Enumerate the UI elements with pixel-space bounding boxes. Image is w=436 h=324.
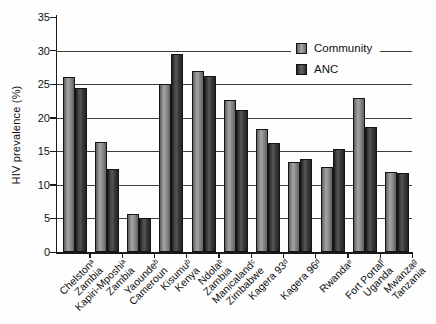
bar-anc-8	[333, 149, 345, 252]
legend-entry-community: Community	[291, 40, 380, 56]
bar-community-7	[288, 162, 300, 252]
gridline-25	[57, 84, 412, 85]
bar-community-4	[192, 71, 204, 252]
bar-community-10	[385, 172, 397, 252]
bar-anc-5	[236, 110, 248, 252]
bar-community-0	[63, 77, 75, 252]
bar-community-3	[159, 84, 171, 252]
y-tick-label-0: 0	[14, 246, 50, 258]
y-tick-label-5: 5	[14, 212, 50, 224]
legend-label-community: Community	[314, 42, 372, 54]
bar-anc-9	[365, 127, 377, 252]
y-axis-title: HIV prevalence (%)	[10, 79, 22, 191]
hiv-prevalence-chart: HIV prevalence (%) 05101520253035Chelsto…	[0, 0, 436, 324]
bar-anc-4	[204, 76, 216, 252]
y-tick-label-30: 30	[14, 45, 50, 57]
bar-community-9	[353, 98, 365, 252]
y-tick-label-20: 20	[14, 112, 50, 124]
bar-community-6	[256, 129, 268, 252]
x-axis-line	[56, 252, 413, 254]
y-tick-10	[50, 184, 56, 185]
y-tick-5	[50, 218, 56, 219]
y-tick-label-10: 10	[14, 179, 50, 191]
bar-anc-6	[268, 143, 280, 252]
x-label-10: MwanzaᵍTanzania	[382, 257, 427, 302]
bar-anc-10	[397, 173, 409, 252]
y-tick-label-25: 25	[14, 78, 50, 90]
y-tick-label-15: 15	[14, 145, 50, 157]
y-tick-label-35: 35	[14, 11, 50, 23]
y-tick-0	[50, 252, 56, 253]
bar-community-2	[127, 214, 139, 252]
legend-swatch-community	[296, 43, 307, 54]
legend-label-anc: ANC	[314, 63, 338, 75]
y-tick-35	[50, 17, 56, 18]
legend: CommunityANC	[291, 40, 380, 77]
y-tick-30	[50, 50, 56, 51]
bar-community-1	[95, 142, 107, 252]
bar-anc-0	[75, 88, 87, 253]
y-tick-25	[50, 84, 56, 85]
y-tick-20	[50, 117, 56, 118]
legend-swatch-anc	[296, 64, 307, 75]
bar-anc-2	[139, 218, 151, 252]
bar-community-5	[224, 100, 236, 252]
bar-community-8	[321, 167, 333, 252]
bar-anc-3	[171, 54, 183, 252]
bar-anc-7	[300, 159, 312, 252]
bar-anc-1	[107, 169, 119, 252]
legend-entry-anc: ANC	[291, 61, 346, 77]
y-tick-15	[50, 151, 56, 152]
